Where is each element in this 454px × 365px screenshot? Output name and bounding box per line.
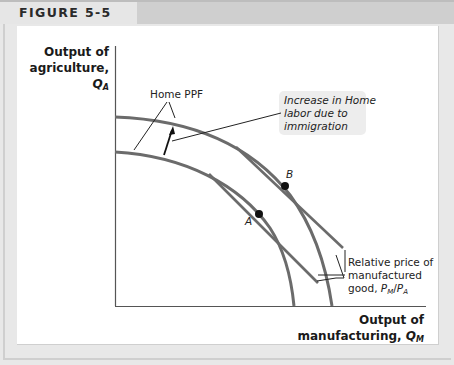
price-annotation-line3: good, PM/PA (348, 282, 433, 299)
shift-arrow-head (169, 126, 175, 135)
immigration-annotation-line3: immigration (284, 120, 376, 133)
price-annotation-line1: Relative price of (348, 256, 433, 269)
point-b-label: B (286, 168, 293, 180)
x-axis-label: Output of manufacturing, QM (290, 312, 424, 348)
immigration-annotation-line2: labor due to (284, 107, 376, 120)
immigration-annotation: Increase in Home labor due to immigratio… (284, 94, 376, 133)
y-axis-sub: A (103, 83, 109, 92)
home-ppf-label: Home PPF (150, 88, 203, 101)
x-axis-label-line1: Output of (290, 312, 424, 328)
point-a-marker (255, 210, 263, 218)
y-axis-var: Q (93, 77, 103, 91)
price-sub-a: A (403, 288, 408, 296)
y-axis-label-text: agriculture, (30, 61, 109, 75)
x-axis-label-text: manufacturing, (298, 329, 402, 343)
home-ppf-leader-outer (169, 102, 175, 118)
y-axis-label-line2: agriculture, QA (20, 60, 109, 96)
price-annotation: Relative price of manufactured good, PM/… (348, 256, 433, 299)
y-axis-label-line1: Output of (20, 44, 109, 60)
home-ppf-leader-inner (134, 102, 167, 150)
ppf-immigration-curve (115, 117, 332, 306)
immigration-annotation-line1: Increase in Home (284, 94, 376, 107)
price-line-a (209, 174, 318, 283)
x-axis-label-line2: manufacturing, QM (290, 328, 424, 348)
x-axis-var: Q (406, 329, 416, 343)
y-axis-label: Output of agriculture, QA (20, 44, 109, 96)
point-a-label: A (245, 215, 252, 227)
price-line-b (236, 147, 343, 248)
price-annotation-prefix: good, (348, 282, 381, 294)
x-axis-sub: M (416, 335, 424, 344)
price-annotation-line2: manufactured (348, 269, 433, 282)
point-b-marker (281, 182, 289, 190)
